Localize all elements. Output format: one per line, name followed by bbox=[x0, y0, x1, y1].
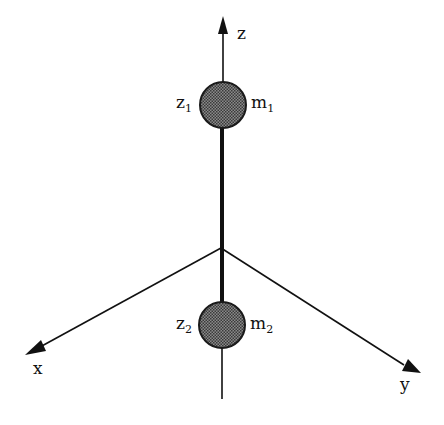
y-axis-line bbox=[221, 248, 404, 365]
mass-2-sphere bbox=[199, 302, 245, 348]
x-axis-arrowhead-icon bbox=[25, 340, 46, 355]
y-axis-label: y bbox=[399, 374, 410, 394]
coordinate-diagram: z x y z1 m1 z2 m2 bbox=[0, 0, 444, 425]
z-axis-label: z bbox=[237, 23, 246, 43]
mass-1-mass-label: m1 bbox=[251, 92, 274, 115]
y-axis-arrowhead-icon bbox=[402, 359, 421, 373]
mass-1-position-label: z1 bbox=[176, 92, 192, 115]
mass-2-position-label: z2 bbox=[176, 313, 192, 336]
mass-2-mass-label: m2 bbox=[250, 313, 273, 336]
z-axis-arrowhead-icon bbox=[218, 16, 228, 34]
x-axis-label: x bbox=[33, 358, 43, 378]
mass-1-sphere bbox=[200, 82, 246, 128]
x-axis-line bbox=[40, 248, 221, 347]
